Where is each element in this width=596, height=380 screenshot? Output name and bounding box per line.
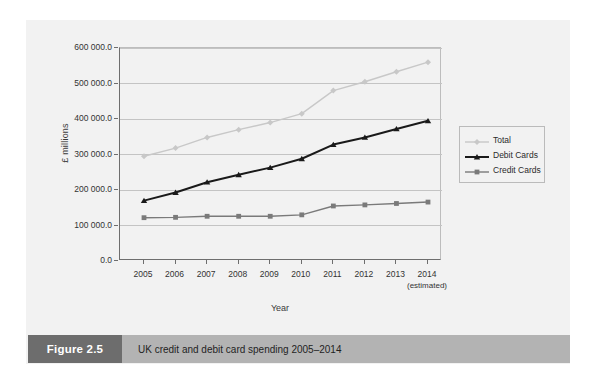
chart-legend: TotalDebit CardsCredit Cards (459, 126, 545, 183)
x-tick-label: 2011 (323, 269, 341, 280)
legend-label: Debit Cards (490, 150, 538, 160)
x-tick-mark (427, 260, 428, 264)
y-tick-mark (114, 225, 118, 226)
x-tick-label: 2008 (228, 269, 247, 280)
x-axis-title: Year (119, 303, 441, 313)
y-tick-label: 0.0 (48, 255, 112, 265)
y-tick-mark (114, 118, 118, 119)
x-tick-mark (364, 260, 365, 264)
x-tick-label: 2005 (134, 269, 153, 280)
x-tick-label: 2010 (291, 269, 310, 280)
x-tick-mark (332, 260, 333, 264)
y-axis-tick-labels: 0.0100 000.0200 000.0300 000.0400 000.05… (48, 20, 112, 330)
y-tick-label: 100 000.0 (48, 220, 112, 230)
legend-marker-icon (464, 149, 490, 161)
x-tick-label: 2014(estimated) (407, 269, 447, 291)
chart-figure: £ millions 0.0100 000.0200 000.0300 000.… (26, 20, 570, 330)
plot-area (119, 47, 441, 260)
x-tick-mark (143, 260, 144, 264)
x-tick-mark (395, 260, 396, 264)
x-tick-label: 2007 (197, 269, 216, 280)
y-tick-label: 400 000.0 (48, 113, 112, 123)
y-tick-mark (114, 260, 118, 261)
series-credit-cards (142, 200, 431, 220)
y-tick-mark (114, 47, 118, 48)
legend-marker-icon (464, 164, 490, 176)
figure-caption-text: UK credit and debit card spending 2005–2… (122, 335, 570, 363)
series-total (141, 59, 431, 159)
y-tick-label: 500 000.0 (48, 78, 112, 88)
legend-item-total[interactable]: Total (464, 132, 539, 147)
legend-label: Total (490, 135, 511, 145)
y-tick-mark (114, 189, 118, 190)
x-tick-label: 2012 (354, 269, 373, 280)
x-tick-mark (175, 260, 176, 264)
y-tick-label: 600 000.0 (48, 42, 112, 52)
chart-canvas (120, 48, 442, 261)
x-tick-label: 2006 (165, 269, 184, 280)
y-tick-label: 300 000.0 (48, 149, 112, 159)
x-tick-label: 2009 (260, 269, 279, 280)
x-tick-mark (206, 260, 207, 264)
figure-caption-bar: Figure 2.5 UK credit and debit card spen… (28, 335, 570, 363)
x-tick-label: 2013 (386, 269, 405, 280)
x-tick-mark (269, 260, 270, 264)
y-tick-mark (114, 83, 118, 84)
y-tick-mark (114, 154, 118, 155)
y-tick-label: 200 000.0 (48, 184, 112, 194)
x-axis-tick-labels: 2005200620072008200920102011201220132014… (119, 263, 441, 297)
legend-item-credit-cards[interactable]: Credit Cards (464, 162, 539, 177)
legend-item-debit-cards[interactable]: Debit Cards (464, 147, 539, 162)
x-tick-estimated-note: (estimated) (407, 280, 447, 291)
x-tick-mark (301, 260, 302, 264)
figure-number-label: Figure 2.5 (28, 335, 122, 363)
legend-marker-icon (464, 134, 490, 146)
x-tick-mark (238, 260, 239, 264)
figure-page: £ millions 0.0100 000.0200 000.0300 000.… (26, 20, 570, 364)
legend-label: Credit Cards (490, 165, 541, 175)
